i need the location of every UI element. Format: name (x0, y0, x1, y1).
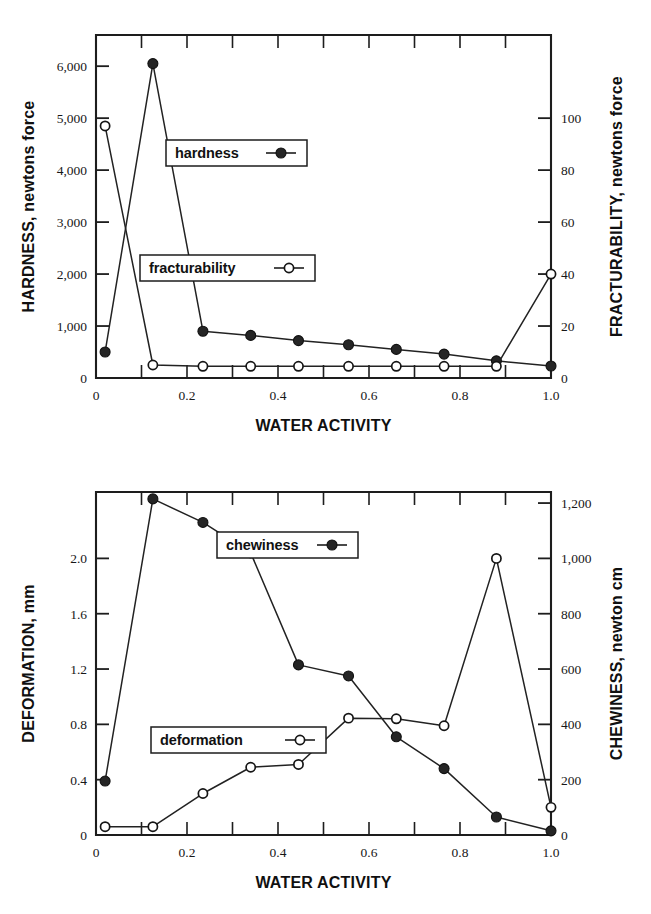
x-axis-title: WATER ACTIVITY (255, 874, 391, 891)
y-tick-label-right: 20 (561, 319, 575, 334)
y-tick-label-right: 200 (561, 773, 582, 788)
series-line-deformation (105, 558, 551, 826)
y-tick-label-left: 0.8 (70, 717, 87, 732)
data-point-fracturability (344, 362, 353, 371)
x-tick-label: 1.0 (543, 845, 560, 860)
y-tick-label-left: 6,000 (57, 59, 88, 74)
x-tick-label: 0.6 (361, 388, 378, 403)
y-tick-label-right: 0 (561, 828, 568, 843)
data-point-fracturability (198, 362, 207, 371)
legend-marker (284, 263, 293, 272)
data-point-deformation (492, 554, 501, 563)
x-tick-label: 0.8 (452, 388, 469, 403)
data-point-fracturability (546, 269, 555, 278)
legend-marker (276, 148, 286, 158)
data-point-hardness (100, 347, 110, 357)
x-tick-label: 0.4 (270, 845, 287, 860)
data-point-chewiness (344, 671, 354, 681)
y-tick-label-left: 1,000 (57, 319, 88, 334)
data-point-deformation (148, 822, 157, 831)
data-point-fracturability (294, 362, 303, 371)
chart-panel-hardness-fracturability: 00.20.40.60.81.001,0002,0003,0004,0005,0… (0, 0, 651, 457)
y-tick-label-right: 0 (561, 371, 568, 386)
legend-chewiness[interactable]: chewiness (217, 532, 358, 558)
data-point-hardness (546, 361, 556, 371)
y-axis-left: 01,0002,0003,0004,0005,0006,000 (57, 59, 109, 386)
data-point-chewiness (439, 764, 449, 774)
y-tick-label-left: 2,000 (57, 267, 88, 282)
y-tick-label-left: 0 (80, 371, 87, 386)
x-tick-label: 0.6 (361, 845, 378, 860)
data-point-hardness (439, 349, 449, 359)
y-tick-label-left: 1.2 (70, 662, 87, 677)
data-point-chewiness (100, 776, 110, 786)
two-panel-figure: 00.20.40.60.81.001,0002,0003,0004,0005,0… (0, 0, 651, 914)
y-tick-label-right: 80 (561, 163, 575, 178)
data-point-deformation (546, 803, 555, 812)
data-point-hardness (148, 59, 158, 69)
y-tick-label-left: 0 (80, 828, 87, 843)
y-tick-label-right: 40 (561, 267, 575, 282)
data-point-hardness (391, 344, 401, 354)
legend-marker (295, 735, 304, 744)
legend-label: chewiness (226, 537, 298, 553)
data-point-deformation (246, 763, 255, 772)
hardness-fracturability-chart: 00.20.40.60.81.001,0002,0003,0004,0005,0… (0, 0, 651, 457)
chart-panel-deformation-chewiness: 00.20.40.60.81.000.40.81.21.62.002004006… (0, 457, 651, 914)
series-hardness (100, 59, 556, 371)
y-axis-title-right: CHEWINESS, newton cm (608, 567, 625, 760)
data-point-chewiness (391, 732, 401, 742)
y-tick-label-right: 60 (561, 215, 575, 230)
y-tick-label-right: 1,000 (561, 551, 592, 566)
data-point-fracturability (392, 362, 401, 371)
y-tick-label-right: 100 (561, 111, 582, 126)
legend-hardness[interactable]: hardness (166, 140, 307, 166)
plot-frame (96, 35, 551, 378)
axis-ticks (142, 35, 506, 378)
deformation-chewiness-chart: 00.20.40.60.81.000.40.81.21.62.002004006… (0, 457, 651, 914)
data-point-deformation (198, 789, 207, 798)
x-axis-title: WATER ACTIVITY (255, 417, 391, 434)
data-point-fracturability (246, 362, 255, 371)
y-tick-label-right: 1,200 (561, 496, 592, 511)
x-tick-label: 0.2 (179, 845, 196, 860)
y-tick-label-left: 0.4 (70, 773, 87, 788)
data-point-fracturability (439, 362, 448, 371)
y-axis-title-left: DEFORMATION, mm (20, 584, 37, 742)
y-tick-label-right: 600 (561, 662, 582, 677)
y-tick-label-right: 800 (561, 607, 582, 622)
data-point-fracturability (148, 360, 157, 369)
legend-label: hardness (175, 145, 239, 161)
x-tick-labels: 00.20.40.60.81.0 (93, 845, 560, 860)
data-point-chewiness (148, 494, 158, 504)
x-tick-label: 1.0 (543, 388, 560, 403)
series-line-hardness (105, 64, 551, 366)
x-tick-label: 0.2 (179, 388, 196, 403)
legend-marker (327, 540, 337, 550)
x-tick-label: 0 (93, 388, 100, 403)
data-point-fracturability (492, 362, 501, 371)
y-tick-label-left: 5,000 (57, 111, 88, 126)
y-axis-left: 00.40.81.21.62.0 (70, 551, 109, 843)
data-point-hardness (246, 330, 256, 340)
legend-deformation[interactable]: deformation (151, 727, 326, 753)
y-tick-label-right: 400 (561, 717, 582, 732)
data-point-chewiness (198, 517, 208, 527)
y-axis-title-left: HARDNESS, newtons force (20, 101, 37, 313)
data-point-hardness (293, 336, 303, 346)
data-point-deformation (439, 721, 448, 730)
data-point-deformation (344, 714, 353, 723)
data-point-deformation (294, 760, 303, 769)
series-deformation (101, 554, 556, 832)
y-tick-label-left: 3,000 (57, 215, 88, 230)
y-axis-right: 02004006008001,0001,200 (538, 496, 592, 843)
legend-label: fracturability (149, 260, 235, 276)
data-point-deformation (101, 822, 110, 831)
data-point-chewiness (491, 812, 501, 822)
x-tick-label: 0.4 (270, 388, 287, 403)
data-point-chewiness (546, 826, 556, 836)
data-point-fracturability (101, 121, 110, 130)
legend-fracturability[interactable]: fracturability (140, 255, 315, 281)
data-point-deformation (392, 714, 401, 723)
data-point-hardness (198, 326, 208, 336)
